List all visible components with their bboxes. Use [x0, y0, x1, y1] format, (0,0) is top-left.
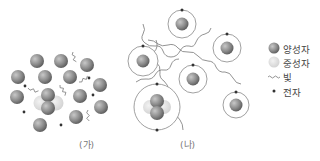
proton-icon — [230, 99, 243, 112]
legend-proton-label: 양성자 — [283, 42, 310, 56]
proton-icon — [221, 42, 234, 55]
proton-icon — [137, 55, 150, 68]
electron-icon — [60, 124, 63, 127]
legend-light-label: 빛 — [283, 70, 292, 84]
panel-a-label: (가) — [79, 138, 94, 151]
proton-icon — [69, 110, 83, 124]
light-wave-icon — [72, 52, 76, 62]
electron-icon — [24, 85, 27, 88]
proton-icon — [54, 54, 68, 68]
proton-icon — [33, 118, 47, 132]
electron-icon — [192, 64, 195, 67]
electron-icon — [92, 94, 95, 97]
proton-icon — [187, 73, 200, 86]
legend-neutron-label: 중성자 — [283, 56, 310, 70]
electron-icon — [156, 83, 159, 86]
diagram-canvas — [0, 0, 320, 161]
electron-icon — [235, 91, 238, 94]
electron-icon — [88, 77, 91, 80]
electron-icon — [226, 33, 229, 36]
proton-icon — [73, 89, 87, 103]
electron-icon — [23, 111, 26, 114]
light-wave-icon — [28, 88, 39, 92]
proton-icon — [30, 54, 44, 68]
proton-icon — [94, 100, 108, 114]
proton-icon — [38, 70, 52, 84]
proton-icon — [93, 78, 107, 92]
proton-icon — [11, 70, 25, 84]
panel-b-atoms — [128, 9, 249, 132]
light-wave-icon — [60, 85, 66, 96]
proton-icon — [10, 90, 24, 104]
proton-icon — [80, 58, 94, 72]
legend-electron-label: 전자 — [283, 85, 301, 99]
proton-icon — [41, 101, 55, 115]
proton-icon — [150, 106, 164, 120]
electron-icon — [181, 9, 184, 12]
proton-icon — [150, 94, 164, 108]
proton-icon — [41, 88, 55, 102]
proton-icon — [176, 18, 189, 31]
electron-icon — [142, 45, 145, 48]
electron-icon — [156, 129, 159, 132]
panel-b-label: (나) — [180, 138, 195, 151]
light-wave-icon — [79, 76, 87, 82]
light-wave-icon — [87, 110, 90, 121]
proton-icon — [63, 70, 77, 84]
panel-a-early-universe — [10, 52, 108, 132]
